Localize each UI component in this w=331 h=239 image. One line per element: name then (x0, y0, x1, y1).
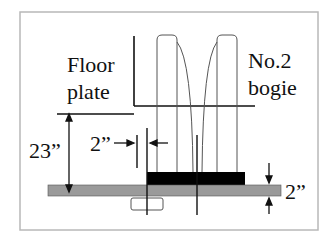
left-wheel (157, 35, 177, 172)
floor-plate-label-line2: plate (67, 79, 110, 104)
black-plate (147, 172, 245, 185)
right-wheel (217, 35, 237, 172)
gap-dimension-label: 2” (90, 131, 111, 156)
thickness-dimension-label: 2” (285, 179, 306, 204)
height-dimension-arrow (66, 114, 72, 192)
bogie-label-line1: No.2 (248, 48, 291, 73)
left-wheel-flange (177, 42, 193, 172)
bogie-label-line2: bogie (248, 75, 297, 100)
height-dimension-label: 23” (29, 138, 61, 163)
right-wheel-flange (202, 42, 217, 172)
diagram-frame (20, 12, 318, 230)
floor-plate-label-line1: Floor (67, 52, 115, 77)
bogie-clearance-diagram: Floor plate No.2 bogie 23” 2” 2” (0, 0, 331, 239)
gray-base-plate (48, 185, 281, 196)
gap-dimension-arrows (114, 140, 168, 146)
